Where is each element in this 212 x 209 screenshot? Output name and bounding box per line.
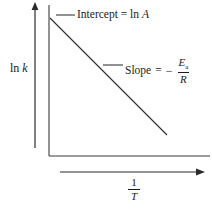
y-axis-label: ln k — [10, 62, 28, 74]
intercept-annotation-prefix: Intercept = — [77, 8, 127, 20]
y-axis-label-ln: ln — [10, 61, 19, 75]
activation-energy-numerator: Ea — [176, 57, 190, 72]
intercept-annotation-ln: ln — [130, 8, 139, 20]
slope-annotation-minus: − — [166, 65, 174, 77]
x-axis-label-denominator: T — [128, 189, 140, 202]
x-axis-label: 1 T — [128, 177, 140, 202]
y-axis-label-variable: k — [22, 61, 27, 75]
inverse-temperature-fraction: 1 T — [128, 177, 140, 202]
slope-annotation-prefix: Slope — [125, 65, 151, 77]
activation-energy-fraction: Ea R — [176, 57, 190, 85]
slope-annotation: Slope = − Ea R — [125, 57, 190, 85]
y-direction-arrowhead-icon — [32, 2, 39, 10]
gas-constant-symbol: R — [180, 73, 187, 85]
x-direction-arrowhead-icon — [196, 169, 205, 176]
intercept-annotation: Intercept = ln A — [77, 9, 149, 21]
x-axis-label-numerator: 1 — [128, 177, 140, 189]
activation-energy-subscript: a — [185, 63, 188, 71]
arrhenius-plot-figure: ln k Intercept = ln A Slope = − Ea R 1 T — [0, 0, 212, 209]
intercept-annotation-variable: A — [142, 8, 149, 20]
plot-drawing — [0, 0, 212, 209]
slope-annotation-equals: = — [154, 65, 163, 77]
gas-constant-denominator: R — [178, 72, 189, 85]
